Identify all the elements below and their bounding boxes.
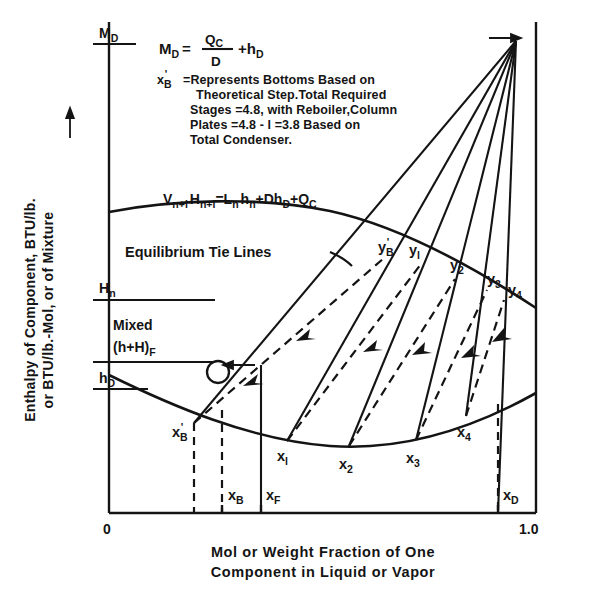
tie-line-1 bbox=[194, 258, 384, 423]
label-hd: hD bbox=[99, 370, 116, 389]
label-x1: xl bbox=[277, 448, 288, 467]
y-axis-arrow-icon bbox=[66, 108, 74, 138]
mixed-feed-label: Mixed (h+H)F bbox=[113, 317, 156, 358]
label-x2: x2 bbox=[339, 456, 353, 475]
md-equation: MD= QC D +hD bbox=[159, 32, 264, 69]
feed-point-arrow-icon bbox=[223, 361, 255, 369]
label-x3: x3 bbox=[406, 450, 420, 469]
x-axis-max-label: 1.0 bbox=[519, 521, 539, 537]
x-axis-min-label: 0 bbox=[103, 521, 111, 537]
label-y4: y4 bbox=[508, 282, 522, 301]
tie-arrow-2 bbox=[363, 340, 383, 352]
y-axis-title-line2: or BTU/lb.-Mol, or of Mixture bbox=[40, 212, 56, 409]
annotation-line-4: Plates =4.8 - l =3.8 Based on bbox=[190, 118, 360, 132]
md-equation-rhs: +hD bbox=[238, 40, 264, 60]
tie-line-4 bbox=[416, 290, 487, 440]
tie-line-5 bbox=[466, 300, 504, 416]
label-x-b-prime: xB' bbox=[172, 421, 188, 443]
label-y3: y3 bbox=[487, 271, 501, 290]
label-y1: yl bbox=[409, 242, 420, 261]
y-axis-title-line1: Enthalpy of Component, BTU/lb. bbox=[22, 198, 38, 422]
liquid-point-labels: xB' xl x2 x3 x4 bbox=[172, 421, 471, 475]
annotation-block: xB' =Represents Bottoms Based on Theoret… bbox=[157, 68, 397, 147]
enthalpy-balance-equation: Vn+lHn+i=Lnhn+DhD+QC bbox=[163, 191, 317, 210]
enthalpy-concentration-diagram: MD Hn hD MD= QC D +hD xB' =Represents Bo… bbox=[0, 0, 597, 599]
annotation-symbol: xB' bbox=[157, 68, 172, 90]
label-xb: xB bbox=[228, 487, 244, 506]
label-xd: xD bbox=[503, 487, 519, 506]
annotation-line-1: =Represents Bottoms Based on bbox=[183, 73, 375, 87]
md-equation-denominator: D bbox=[211, 54, 221, 69]
tie-arrow-4 bbox=[461, 345, 481, 358]
x-axis-title-line1: Mol or Weight Fraction of One bbox=[211, 544, 435, 560]
label-hn: Hn bbox=[99, 280, 116, 299]
annotation-line-5: Total Condenser. bbox=[190, 133, 292, 147]
annotation-line-2: Theoretical Step.Total Required bbox=[196, 88, 386, 102]
tie-line-2 bbox=[287, 264, 421, 441]
label-y-b-prime: yB' bbox=[378, 236, 394, 258]
md-equation-numerator: QC bbox=[205, 32, 224, 49]
bottom-axis-point-labels: xB xF xD bbox=[228, 487, 519, 506]
equilibrium-tie-lines bbox=[194, 258, 504, 446]
md-equation-lhs: MD= bbox=[159, 40, 191, 60]
tie-lines-label: Equilibrium Tie Lines bbox=[125, 244, 271, 260]
label-xf: xF bbox=[266, 487, 281, 506]
label-x4: x4 bbox=[457, 424, 471, 443]
delta-point-arrow-icon bbox=[489, 34, 521, 42]
annotation-line-3: Stages =4.8, with Reboiler,Column bbox=[190, 103, 397, 117]
x-axis-title-line2: Component in Liquid or Vapor bbox=[211, 564, 436, 580]
mixed-label-line1: Mixed bbox=[113, 317, 153, 333]
mixed-label-line2: (h+H)F bbox=[113, 339, 156, 358]
